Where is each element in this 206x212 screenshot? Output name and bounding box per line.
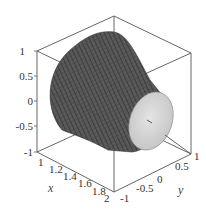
z-tick-label: 1: [20, 45, 26, 57]
z-axis: 1 0.5 0 -0.5 -1: [16, 45, 37, 158]
z-tick-label: 0.5: [19, 70, 33, 82]
x-tick-label: 1.2: [49, 163, 63, 175]
y-tick-label: 0.5: [175, 160, 189, 172]
y-tick-label: 0: [157, 173, 163, 185]
y-tick-label: -1: [120, 192, 129, 204]
y-tick-label: -0.5: [136, 182, 154, 194]
z-tick-label: -1: [24, 146, 33, 158]
y-axis: -1 -0.5 0 0.5 1 y: [120, 150, 200, 204]
surface-plot-3d[interactable]: 1 0.5 0 -0.5 -1 1 1.2 1.4 1.6 1.8 2 x -1…: [0, 0, 206, 212]
y-tick-label: 1: [194, 150, 200, 162]
x-axis-label: x: [47, 181, 54, 195]
x-axis: 1 1.2 1.4 1.6 1.8 2 x: [38, 156, 110, 204]
y-axis-label: y: [177, 183, 184, 197]
z-tick-label: -0.5: [16, 120, 34, 132]
x-tick-label: 1.4: [63, 170, 77, 182]
x-tick-label: 1: [38, 156, 44, 168]
z-tick-label: 0: [28, 95, 34, 107]
x-tick-label: 2: [104, 192, 110, 204]
x-tick-label: 1.6: [78, 177, 92, 189]
